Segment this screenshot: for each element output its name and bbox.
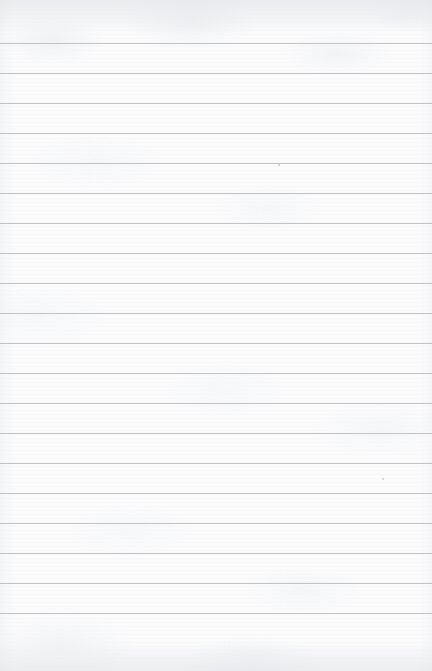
paper-background: [0, 0, 432, 671]
lined-paper-page: [0, 0, 432, 671]
